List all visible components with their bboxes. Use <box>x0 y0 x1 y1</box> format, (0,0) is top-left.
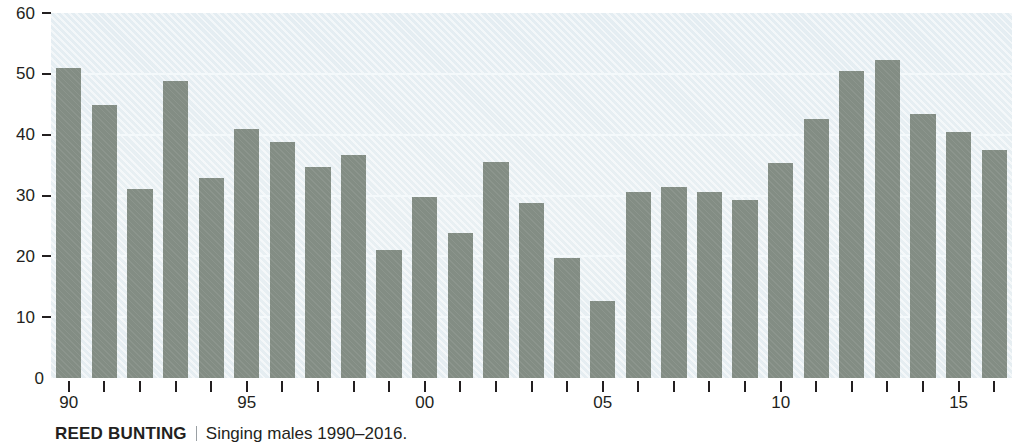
x-tick-mark-2002 <box>495 381 497 392</box>
y-tick-mark <box>42 134 51 136</box>
x-tick-mark-1990 <box>68 381 70 392</box>
x-tick-mark-2015 <box>958 381 960 392</box>
x-tick-mark-2000 <box>424 381 426 392</box>
y-tick-mark <box>42 255 51 257</box>
bar-1992 <box>127 189 152 378</box>
x-tick-mark-2003 <box>531 381 533 392</box>
bar-1990 <box>56 68 81 378</box>
x-tick-mark-2016 <box>993 381 995 392</box>
y-tick-label: 40 <box>16 126 42 143</box>
caption-divider-icon <box>196 426 197 441</box>
x-tick-mark-1998 <box>353 381 355 392</box>
x-tick-mark-2013 <box>886 381 888 392</box>
y-tick-label: 50 <box>16 65 42 82</box>
y-tick-label: 10 <box>16 309 42 326</box>
bar-1996 <box>270 142 295 378</box>
x-tick-mark-2004 <box>566 381 568 392</box>
bar-2000 <box>412 197 437 378</box>
x-tick-mark-1995 <box>246 381 248 392</box>
bar-1994 <box>199 178 224 378</box>
y-tick-label: 20 <box>16 248 42 265</box>
bar-series <box>51 13 1012 378</box>
x-tick-mark-2009 <box>744 381 746 392</box>
bar-1993 <box>163 81 188 378</box>
y-tick-mark <box>42 12 51 14</box>
bar-1991 <box>92 105 117 378</box>
x-tick-mark-1997 <box>317 381 319 392</box>
x-tick-mark-1993 <box>175 381 177 392</box>
bar-1997 <box>305 167 330 378</box>
x-tick-mark-1999 <box>388 381 390 392</box>
y-tick-mark <box>42 316 51 318</box>
x-tick-mark-1991 <box>103 381 105 392</box>
x-tick-mark-2014 <box>922 381 924 392</box>
bar-2013 <box>875 60 900 378</box>
chart-figure: 0102030405060 909500051015 REED BUNTING … <box>0 0 1019 447</box>
y-tick-label: 30 <box>16 187 42 204</box>
bar-2011 <box>804 119 829 378</box>
bar-2016 <box>982 150 1007 378</box>
x-tick-mark-2007 <box>673 381 675 392</box>
bar-2015 <box>946 132 971 378</box>
bar-1998 <box>341 155 366 378</box>
bar-1995 <box>234 129 259 378</box>
x-tick-label-10: 10 <box>771 394 790 411</box>
bar-2014 <box>910 114 935 378</box>
x-tick-label-95: 95 <box>237 394 256 411</box>
x-tick-mark-2010 <box>780 381 782 392</box>
bar-2010 <box>768 163 793 378</box>
x-tick-mark-1992 <box>139 381 141 392</box>
x-tick-label-00: 00 <box>415 394 434 411</box>
caption-subtitle: Singing males 1990–2016. <box>206 424 407 444</box>
x-tick-label-05: 05 <box>593 394 612 411</box>
y-axis: 0102030405060 <box>0 0 51 447</box>
x-tick-label-90: 90 <box>59 394 78 411</box>
x-tick-mark-2006 <box>637 381 639 392</box>
y-tick-mark <box>42 73 51 75</box>
bar-2001 <box>448 233 473 378</box>
bar-1999 <box>376 250 401 378</box>
y-tick-label: 60 <box>16 5 42 22</box>
bar-2003 <box>519 203 544 378</box>
y-tick-mark <box>42 195 51 197</box>
bar-2012 <box>839 71 864 378</box>
y-tick-label: 0 <box>35 370 51 387</box>
bar-2004 <box>554 258 579 378</box>
x-tick-mark-2011 <box>815 381 817 392</box>
bar-2005 <box>590 301 615 378</box>
bar-2006 <box>626 192 651 378</box>
x-tick-mark-1996 <box>281 381 283 392</box>
x-tick-label-15: 15 <box>949 394 968 411</box>
x-axis: 909500051015 <box>51 378 1012 418</box>
x-tick-mark-2012 <box>851 381 853 392</box>
caption-species-name: REED BUNTING <box>55 424 187 444</box>
x-tick-mark-2001 <box>459 381 461 392</box>
x-tick-mark-2005 <box>602 381 604 392</box>
x-tick-mark-2008 <box>708 381 710 392</box>
bar-2007 <box>661 187 686 378</box>
bar-2009 <box>732 200 757 378</box>
bar-2002 <box>483 162 508 378</box>
bar-2008 <box>697 192 722 378</box>
chart-caption: REED BUNTING Singing males 1990–2016. <box>55 424 407 444</box>
x-tick-mark-1994 <box>210 381 212 392</box>
